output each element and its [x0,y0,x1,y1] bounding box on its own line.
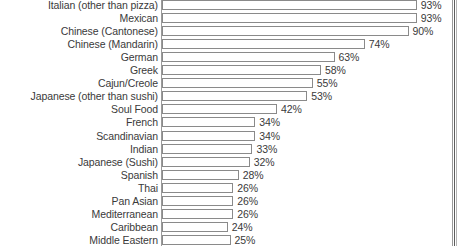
category-label: Greek [0,65,158,76]
bar-track [162,183,233,193]
chart-bar-row: Mediterranean26% [0,208,452,221]
bar [162,170,239,180]
bar [162,78,313,88]
chart-bar-row: Caribbean24% [0,221,452,234]
category-label: Indian [0,144,158,155]
bar-value-label: 93% [421,0,442,11]
bar-value-label: 53% [311,90,332,102]
chart-bar-row: Spanish28% [0,169,452,182]
category-label: German [0,52,158,63]
bar-track [162,26,409,36]
bar-value-label: 26% [237,195,258,207]
bar-track [162,52,335,62]
bar-value-label: 33% [256,143,277,155]
bar-value-label: 25% [235,234,256,246]
chart-bar-row: Japanese (Sushi)32% [0,156,452,169]
category-label: Thai [0,183,158,194]
category-label: Mexican [0,13,158,24]
bar-value-label: 34% [259,130,280,142]
bar [162,13,417,23]
chart-bar-row: Mexican93% [0,12,452,25]
bar-track [162,91,307,101]
chart-bar-row: Greek58% [0,64,452,77]
bar [162,65,321,75]
category-label: Italian (other than pizza) [0,0,158,11]
chart-bar-row: Scandinavian34% [0,130,452,143]
bar [162,222,228,232]
bar [162,157,250,167]
bar-track [162,235,231,245]
bar [162,39,365,49]
bar-track [162,0,417,10]
bar [162,91,307,101]
chart-bar-row: Italian (other than pizza)93% [0,0,452,12]
bar-track [162,209,233,219]
chart-bar-row: Japanese (other than sushi)53% [0,90,452,103]
bar [162,183,233,193]
bar-value-label: 63% [339,51,360,63]
category-label: Chinese (Mandarin) [0,39,158,50]
category-label: Soul Food [0,104,158,115]
category-label: Caribbean [0,222,158,233]
bar [162,0,417,10]
bar-value-label: 58% [325,64,346,76]
bar [162,209,233,219]
chart-bar-row: Pan Asian26% [0,195,452,208]
bar [162,117,255,127]
bar-value-label: 26% [237,182,258,194]
chart-bar-row: Chinese (Cantonese)90% [0,25,452,38]
category-label: French [0,117,158,128]
chart-bar-row: Indian33% [0,143,452,156]
bar [162,144,252,154]
bar-value-label: 24% [232,221,253,233]
bar [162,235,231,245]
bar-value-label: 42% [281,103,302,115]
bar-value-label: 26% [237,208,258,220]
bar-value-label: 55% [317,77,338,89]
bar [162,196,233,206]
bar [162,131,255,141]
bar-track [162,131,255,141]
chart-bar-row: Thai26% [0,182,452,195]
bar-track [162,39,365,49]
bar-track [162,65,321,75]
bar-track [162,157,250,167]
category-label: Japanese (other than sushi) [0,91,158,102]
chart-bar-row: Soul Food42% [0,103,452,116]
bar-value-label: 28% [243,169,264,181]
bar [162,52,335,62]
horizontal-bar-chart: Italian (other than pizza)93%Mexican93%C… [0,0,476,246]
category-label: Spanish [0,170,158,181]
bar-track [162,13,417,23]
category-label: Scandinavian [0,131,158,142]
bar-track [162,78,313,88]
bar-value-label: 90% [413,25,434,37]
category-label: Chinese (Cantonese) [0,26,158,37]
chart-rows: Italian (other than pizza)93%Mexican93%C… [0,0,452,246]
bar-track [162,117,255,127]
chart-bar-row: Chinese (Mandarin)74% [0,38,452,51]
category-label: Japanese (Sushi) [0,157,158,168]
bar-track [162,104,277,114]
bar [162,104,277,114]
bar-value-label: 74% [369,38,390,50]
category-label: Middle Eastern [0,235,158,246]
bar-track [162,170,239,180]
bar-track [162,144,252,154]
bar-value-label: 32% [254,156,275,168]
category-label: Cajun/Creole [0,78,158,89]
page-edge-line [454,0,455,246]
bar [162,26,409,36]
chart-bar-row: Cajun/Creole55% [0,77,452,90]
page-edge-line [452,0,453,246]
bar-value-label: 34% [259,116,280,128]
category-label: Mediterranean [0,209,158,220]
chart-bar-row: Middle Eastern25% [0,234,452,246]
category-label: Pan Asian [0,196,158,207]
chart-bar-row: French34% [0,116,452,129]
bar-track [162,222,228,232]
page-edge-line [456,0,457,246]
bar-value-label: 93% [421,12,442,24]
chart-bar-row: German63% [0,51,452,64]
bar-track [162,196,233,206]
